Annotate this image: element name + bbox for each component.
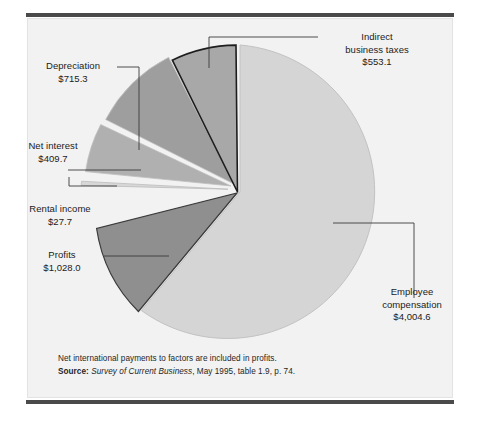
footnote-source: Source: Survey of Current Business, May … [58,365,418,378]
label-rental-income: Rental income $27.7 [14,203,106,228]
label-depreciation-line1: Depreciation [32,60,114,73]
label-indirect-business-taxes-line2: business taxes [322,44,432,57]
label-employee-compensation: Employee compensation $4,004.6 [359,286,465,324]
label-net-interest: Net interest $409.7 [12,140,94,165]
label-employee-compensation-line1: Employee [359,286,465,299]
footnote-source-label: Source: [58,367,89,376]
label-net-interest-line1: Net interest [12,140,94,153]
label-net-interest-value: $409.7 [12,153,94,166]
figure-container: Indirect business taxes $553.1 Depreciat… [0,0,481,426]
footnote-source-publication: Survey of Current Business [91,367,192,376]
footnotes: Net international payments to factors ar… [58,352,418,378]
label-employee-compensation-value: $4,004.6 [359,311,465,324]
label-profits-value: $1,028.0 [26,262,98,275]
label-indirect-business-taxes-line1: Indirect [322,31,432,44]
label-indirect-business-taxes: Indirect business taxes $553.1 [322,31,432,69]
label-profits-line1: Profits [26,249,98,262]
label-employee-compensation-line2: compensation [359,299,465,312]
label-profits: Profits $1,028.0 [26,249,98,274]
label-rental-income-value: $27.7 [14,216,106,229]
footnote-source-rest: , May 1995, table 1.9, p. 74. [192,367,295,376]
label-depreciation: Depreciation $715.3 [32,60,114,85]
label-depreciation-value: $715.3 [32,73,114,86]
label-indirect-business-taxes-value: $553.1 [322,56,432,69]
footnote-note: Net international payments to factors ar… [58,352,418,365]
label-rental-income-line1: Rental income [14,203,106,216]
